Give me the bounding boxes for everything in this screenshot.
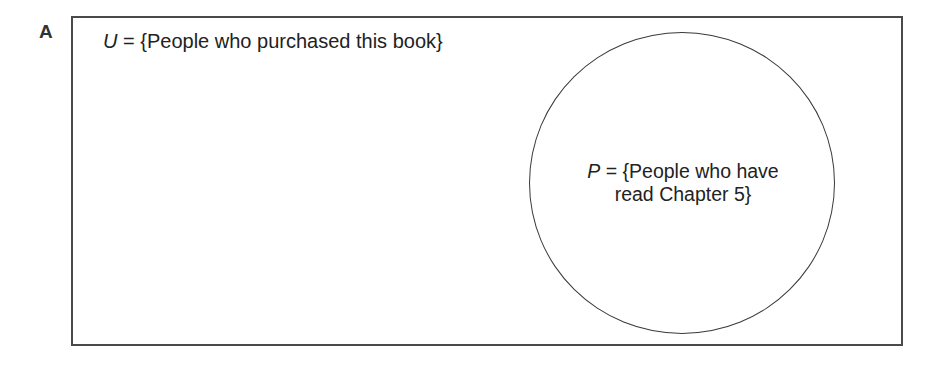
- subset-equals: =: [600, 160, 622, 182]
- universal-set-equals: =: [117, 30, 140, 52]
- panel-label: A: [39, 22, 53, 41]
- subset-label-line1: P = {People who have: [560, 160, 806, 183]
- universal-set-description: {People who purchased this book}: [140, 30, 442, 52]
- universal-set-symbol: U: [103, 30, 117, 52]
- subset-description-line1: {People who have: [623, 160, 779, 182]
- subset-label-line2: read Chapter 5}: [560, 183, 806, 206]
- universal-set-label: U = {People who purchased this book}: [103, 29, 443, 53]
- subset-symbol: P: [587, 160, 600, 182]
- subset-label: P = {People who have read Chapter 5}: [560, 160, 806, 206]
